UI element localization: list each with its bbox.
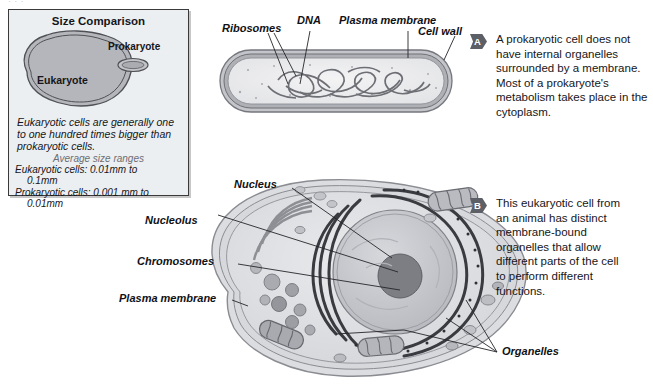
label-nucleolus: Nucleolus bbox=[145, 214, 198, 226]
label-plasma-membrane-eukaryote: Plasma membrane bbox=[119, 292, 216, 304]
nucleolus-shape bbox=[378, 254, 422, 298]
label-nucleus: Nucleus bbox=[234, 178, 277, 190]
label-organelles: Organelles bbox=[502, 345, 559, 357]
callout-b-text: This eukaryotic cell from an animal has … bbox=[496, 196, 624, 298]
label-chromosomes: Chromosomes bbox=[137, 255, 214, 267]
diagram-canvas: · · · Size Comparison Eukaryote Prokaryo… bbox=[0, 0, 653, 391]
callout-a-text: A prokaryotic cell does not have interna… bbox=[496, 32, 650, 120]
